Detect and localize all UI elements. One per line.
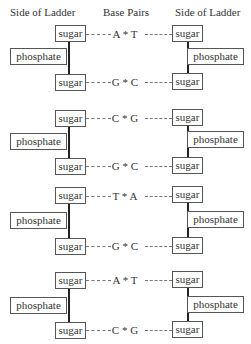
- base-pair-bottom: C * G: [105, 324, 145, 336]
- right-sugar-top: sugar: [172, 271, 203, 288]
- hydrogen-bond-right: [145, 280, 172, 281]
- right-sugar-bottom: sugar: [172, 321, 203, 338]
- header-left-side: Side of Ladder: [10, 6, 75, 18]
- right-phosphate: phosphate: [187, 296, 244, 313]
- hydrogen-bond-right: [145, 118, 172, 119]
- right-sugar-bottom: sugar: [172, 157, 203, 174]
- left-phosphate: phosphate: [10, 48, 67, 65]
- right-phosphate: phosphate: [187, 211, 244, 228]
- base-pair-top: T * A: [105, 190, 145, 202]
- right-phosphate: phosphate: [187, 131, 244, 148]
- left-sugar-top: sugar: [55, 272, 86, 289]
- hydrogen-bond-right: [145, 34, 172, 35]
- left-sugar-top: sugar: [55, 110, 86, 127]
- hydrogen-bond-right: [145, 246, 172, 247]
- left-sugar-top: sugar: [55, 25, 86, 42]
- right-sugar-top: sugar: [172, 186, 203, 203]
- left-backbone-line: [68, 126, 70, 159]
- header-base-pairs: Base Pairs: [103, 6, 149, 18]
- left-backbone-line: [68, 203, 70, 239]
- left-sugar-bottom: sugar: [55, 238, 86, 255]
- hydrogen-bond-right: [145, 166, 172, 167]
- left-phosphate: phosphate: [10, 297, 67, 314]
- left-backbone-line: [68, 41, 70, 75]
- hydrogen-bond-right: [145, 196, 172, 197]
- left-sugar-bottom: sugar: [55, 74, 86, 91]
- right-sugar-top: sugar: [172, 109, 203, 126]
- base-pair-bottom: G * C: [105, 240, 145, 252]
- base-pair-top: A * T: [105, 28, 145, 40]
- right-sugar-bottom: sugar: [172, 73, 203, 90]
- base-pair-top: C * G: [105, 112, 145, 124]
- base-pair-bottom: G * C: [105, 160, 145, 172]
- base-pair-bottom: G * C: [105, 76, 145, 88]
- base-pair-top: A * T: [105, 274, 145, 286]
- left-sugar-top: sugar: [55, 187, 86, 204]
- right-sugar-bottom: sugar: [172, 237, 203, 254]
- left-sugar-bottom: sugar: [55, 322, 86, 339]
- hydrogen-bond-right: [145, 330, 172, 331]
- left-phosphate: phosphate: [10, 212, 67, 229]
- left-phosphate: phosphate: [10, 133, 67, 150]
- right-phosphate: phosphate: [187, 48, 244, 65]
- left-sugar-bottom: sugar: [55, 158, 86, 175]
- hydrogen-bond-right: [145, 82, 172, 83]
- right-sugar-top: sugar: [172, 25, 203, 42]
- header-right-side: Side of Ladder: [175, 6, 240, 18]
- left-backbone-line: [68, 288, 70, 323]
